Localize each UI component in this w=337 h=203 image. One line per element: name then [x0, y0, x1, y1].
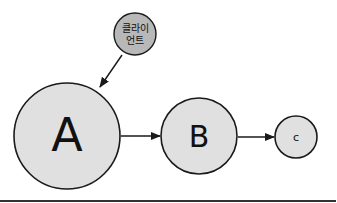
node-b: B [161, 98, 237, 174]
node-a: A [14, 83, 120, 189]
node-b-label: B [189, 119, 210, 154]
edge-client-to-a [100, 55, 122, 87]
node-c: c [275, 116, 317, 158]
diagram-canvas: 클라이 언트 A B c [0, 0, 337, 203]
node-a-label: A [51, 108, 83, 162]
node-client: 클라이 언트 [114, 13, 156, 55]
client-label-line1: 클라이 [122, 23, 149, 34]
node-c-label: c [293, 131, 299, 144]
client-circle [114, 13, 156, 55]
client-label-line2: 언트 [126, 35, 144, 46]
